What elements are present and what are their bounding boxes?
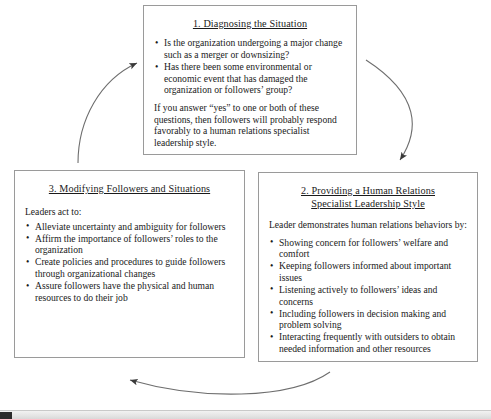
list-item: Alleviate uncertainty and ambiguity for … [25,221,234,233]
node-2-lead: Leader demonstrates human relations beha… [269,219,467,231]
node-2-title-line-1: 2. Providing a Human Relations [301,185,435,196]
node-3-lead: Leaders act to: [25,206,234,218]
node-modifying-followers-and-situations: 3. Modifying Followers and Situations Le… [14,170,245,358]
diagram-canvas: 1. Diagnosing the Situation Is the organ… [0,0,491,419]
list-item: Showing concern for followers’ welfare a… [269,237,467,260]
start-button[interactable] [0,412,12,419]
node-1-title: 1. Diagnosing the Situation [154,17,346,30]
list-item: Interacting frequently with outsiders to… [269,331,467,354]
arrow-box1-to-box2 [366,60,412,160]
node-2-bullet-list: Showing concern for followers’ welfare a… [269,237,467,355]
list-item: Create policies and procedures to guide … [25,256,234,279]
list-item: Affirm the importance of followers’ role… [25,233,234,256]
node-providing-a-human-relations-specialist-leadership-style: 2. Providing a Human Relations Specialis… [258,172,478,362]
node-1-paragraph: If you answer “yes” to one or both of th… [154,102,346,148]
list-item: Listening actively to followers’ ideas a… [269,284,467,307]
list-item: Is the organization undergoing a major c… [154,37,346,60]
list-item: Assure followers have the physical and h… [25,280,234,303]
list-item: Including followers in decision making a… [269,308,467,331]
arrow-box3-to-box1 [78,63,137,163]
list-item: Has there been some environmental or eco… [154,61,346,96]
node-3-title: 3. Modifying Followers and Situations [25,182,234,195]
node-3-bullet-list: Alleviate uncertainty and ambiguity for … [25,221,234,304]
node-1-bullet-list: Is the organization undergoing a major c… [154,37,346,96]
node-2-title-line-2: Specialist Leadership Style [311,198,425,209]
node-2-title: 2. Providing a Human Relations Specialis… [269,184,467,210]
list-item: Keeping followers informed about importa… [269,260,467,283]
arrow-box2-to-box3 [130,372,330,394]
node-diagnosing-the-situation: 1. Diagnosing the Situation Is the organ… [143,5,357,155]
window-bottom-bar [0,410,491,419]
